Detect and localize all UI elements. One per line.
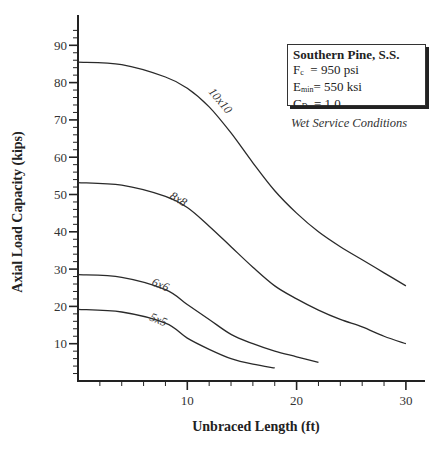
legend-box: Southern Pine, S.S. Fc = 950 psi Emin= 5… (287, 44, 426, 106)
legend-line-emin: Emin= 550 ksi (293, 79, 425, 96)
y-tick-label: 20 (54, 299, 67, 314)
y-tick-label: 90 (54, 38, 67, 53)
x-axis-title: Unbraced Length (ft) (192, 419, 320, 435)
y-tick-label: 30 (54, 262, 67, 277)
y-tick-label: 70 (54, 112, 67, 127)
curve-6x6 (78, 275, 318, 363)
y-tick-label: 40 (54, 224, 67, 239)
y-tick-label: 80 (54, 75, 67, 90)
y-tick-label: 60 (54, 150, 67, 165)
curve-8x8 (78, 183, 406, 344)
y-tick-label: 50 (54, 187, 67, 202)
conditions-note: Wet Service Conditions (291, 116, 407, 131)
x-tick-label: 20 (290, 393, 303, 408)
legend-line-fc: Fc = 950 psi (293, 62, 425, 79)
curve-label-5x5: 5x5 (148, 310, 169, 329)
curve-5x5 (78, 309, 275, 368)
y-tick-label: 10 (54, 336, 67, 351)
x-tick-label: 10 (181, 393, 194, 408)
curve-label-10x10: 10x10 (206, 85, 236, 116)
x-tick-label: 30 (399, 393, 412, 408)
legend-title: Southern Pine, S.S. (293, 47, 425, 62)
legend-line-cd: CD = 1.0 (293, 96, 425, 113)
y-axis-title: Axial Load Capacity (kips) (10, 131, 26, 293)
